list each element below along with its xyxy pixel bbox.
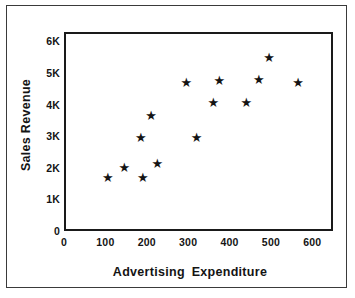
- data-point: ★: [145, 110, 156, 121]
- data-point: ★: [207, 97, 218, 108]
- y-tick-label: 1K: [30, 194, 60, 204]
- x-tick-label: 400: [210, 236, 250, 248]
- plot-area: ★★★★★★★★★★★★★★: [64, 32, 333, 231]
- x-tick-label: 600: [292, 236, 332, 248]
- data-point: ★: [102, 172, 113, 183]
- data-point: ★: [241, 97, 252, 108]
- x-axis-label: Advertising Expenditure: [40, 265, 340, 279]
- data-point: ★: [253, 74, 264, 85]
- x-tick-label: 100: [85, 236, 125, 248]
- data-point: ★: [191, 132, 202, 143]
- y-tick-label: 2K: [30, 163, 60, 173]
- y-tick-label: 6K: [30, 36, 60, 46]
- x-tick-label: 0: [44, 236, 84, 248]
- data-point: ★: [181, 77, 192, 88]
- x-tick-label: 300: [168, 236, 208, 248]
- data-point: ★: [135, 132, 146, 143]
- y-tick-label: 4K: [30, 100, 60, 110]
- y-tick-label: 0: [30, 226, 60, 236]
- y-tick-label: 5K: [30, 68, 60, 78]
- data-point: ★: [263, 52, 274, 63]
- data-point: ★: [214, 75, 225, 86]
- x-tick-label: 200: [127, 236, 167, 248]
- y-axis-label: Sales Revenue: [19, 55, 33, 195]
- data-point: ★: [137, 172, 148, 183]
- scatter-chart-figure: ★★★★★★★★★★★★★★ 01K2K3K4K5K6K 01002003004…: [0, 0, 355, 298]
- x-axis-ticks: 0100200300400500600: [64, 236, 333, 252]
- data-points-layer: ★★★★★★★★★★★★★★: [66, 34, 331, 229]
- x-tick-label: 500: [251, 236, 291, 248]
- data-point: ★: [292, 77, 303, 88]
- data-point: ★: [152, 158, 163, 169]
- data-point: ★: [118, 162, 129, 173]
- y-tick-label: 3K: [30, 131, 60, 141]
